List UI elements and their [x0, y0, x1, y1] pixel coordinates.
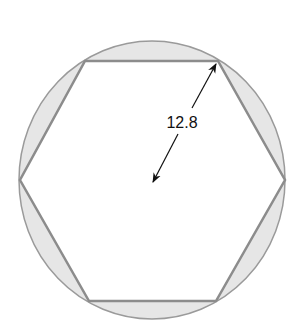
- radius-label: 12.8: [166, 114, 197, 131]
- hexagon-in-circle-diagram: 12.8: [0, 0, 303, 330]
